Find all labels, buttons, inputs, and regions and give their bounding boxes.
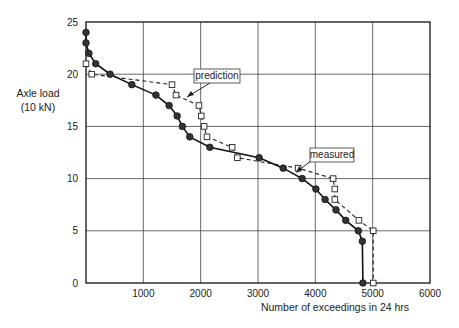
measured-marker [86,50,93,57]
measured-marker [83,40,90,47]
y-tick-label: 25 [67,17,79,28]
x-tick-label: 3000 [247,288,270,299]
prediction-marker [89,71,95,77]
x-tick-label: 6000 [419,288,442,299]
y-axis-ticks: 0510152025 [67,17,79,289]
prediction-marker [201,124,207,130]
grid-lines [86,22,430,283]
chart: 0510152025 100020003000400050006000 Axle… [0,0,459,328]
prediction-callout-label: prediction [195,70,238,81]
prediction-marker [83,61,89,67]
prediction-marker [370,228,376,234]
prediction-line [86,64,373,283]
y-axis-unit: (10 kN) [21,101,55,113]
measured-marker [186,134,193,141]
x-tick-label: 2000 [190,288,213,299]
prediction-marker [198,113,204,119]
measured-callout: measured [296,148,354,173]
measured-marker [333,207,340,214]
measured-marker [322,196,329,203]
prediction-marker [332,186,338,192]
measured-marker [92,60,99,67]
measured-marker [355,228,362,235]
measured-marker [256,154,263,161]
measured-callout-label: measured [310,149,354,160]
measured-marker [153,92,160,99]
prediction-marker [356,218,362,224]
measured-marker [360,280,367,287]
prediction-marker [330,176,336,182]
measured-marker [174,113,181,120]
measured-marker [299,175,306,182]
measured-marker [107,71,114,78]
prediction-marker [229,144,235,150]
measured-marker [83,29,90,36]
prediction-marker [370,280,376,286]
prediction-marker [204,134,210,140]
measured-marker [313,186,320,193]
y-axis-label: Axle load [16,87,59,99]
y-tick-label: 15 [67,121,79,132]
y-tick-label: 5 [72,225,78,236]
prediction-marker [332,197,338,203]
measured-marker [166,102,173,109]
measured-marker [359,238,366,245]
arrowhead-icon [187,91,194,97]
measured-marker [129,81,136,88]
prediction-marker [169,82,175,88]
x-tick-label: 4000 [304,288,327,299]
x-axis-label: Number of exceedings in 24 hrs [261,301,409,313]
y-tick-label: 0 [72,278,78,289]
x-axis-ticks: 100020003000400050006000 [132,288,441,299]
measured-marker [207,144,214,151]
prediction-marker [235,155,241,161]
measured-marker [179,123,186,130]
x-tick-label: 1000 [132,288,155,299]
prediction-marker [173,92,179,98]
y-tick-label: 10 [67,173,79,184]
measured-marker [280,165,287,172]
measured-marker [342,217,349,224]
prediction-marker [196,103,202,109]
prediction-callout: prediction [187,69,240,97]
y-tick-label: 20 [67,69,79,80]
x-tick-label: 5000 [362,288,385,299]
prediction-series [83,61,376,286]
